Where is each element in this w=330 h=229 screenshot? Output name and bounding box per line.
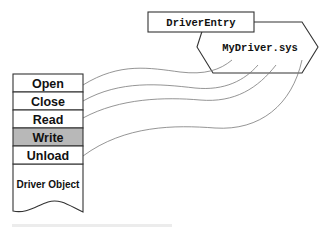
dispatch-label: Write xyxy=(32,131,63,145)
connectors xyxy=(83,60,302,156)
dispatch-row-open: Open xyxy=(13,74,83,92)
dispatch-row-read: Read xyxy=(13,110,83,128)
dispatch-row-write: Write xyxy=(13,128,83,146)
dispatch-label: Open xyxy=(32,77,64,91)
dispatch-label: Unload xyxy=(27,149,69,163)
driver-object-label: Driver Object xyxy=(17,179,80,190)
driver-object-node: Driver Object Open Close Read Write Unlo… xyxy=(13,74,83,212)
driver-diagram: MyDriver.sys DriverEntry Driver Object O… xyxy=(0,0,330,229)
driver-entry-label: DriverEntry xyxy=(166,17,236,29)
dispatch-row-close: Close xyxy=(13,92,83,110)
image-file-label: MyDriver.sys xyxy=(222,42,298,54)
dispatch-row-unload: Unload xyxy=(13,146,83,164)
dispatch-label: Read xyxy=(33,113,64,127)
cropped-caption-fragment xyxy=(12,224,172,227)
driver-entry-node: DriverEntry xyxy=(148,12,254,32)
connector-unload xyxy=(83,60,302,156)
dispatch-label: Close xyxy=(31,95,65,109)
